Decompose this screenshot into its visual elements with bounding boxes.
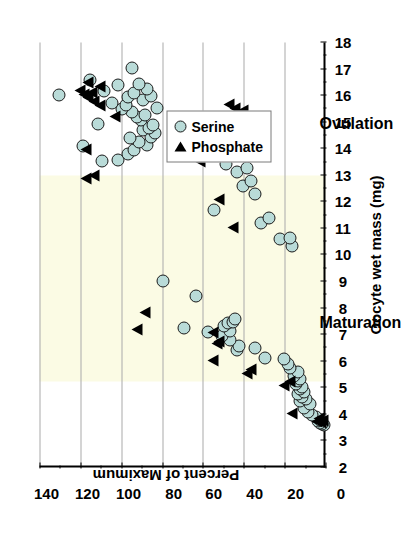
data-point-serine [244,174,257,187]
legend-item-serine: Serine [174,116,263,136]
x-tick-label: 4 [328,406,358,423]
x-tick [321,334,327,335]
phosphate-marker-icon [174,141,186,151]
data-point-phosphate [223,98,234,110]
x-tick [321,68,327,69]
y-tick [40,463,41,469]
data-point-phosphate [132,324,143,336]
data-point-phosphate [313,413,324,425]
data-point-serine [259,351,272,364]
data-point-phosphate [228,222,239,234]
x-tick [321,227,327,228]
x-minor-tick [324,453,327,454]
x-tick [321,387,327,388]
x-tick [321,254,327,255]
x-tick-label: 11 [328,220,358,237]
x-tick [321,42,327,43]
x-minor-tick [324,241,327,242]
data-point-serine [277,352,290,365]
x-tick-label: 9 [328,273,358,290]
y-tick-label: 100 [101,485,141,502]
x-tick [321,360,327,361]
y-tick-label: 140 [19,485,59,502]
x-minor-tick [324,294,327,295]
x-tick [321,95,327,96]
data-point-serine [138,108,151,121]
plot-area: 23456789101112131415161718 0204060801001… [40,43,326,468]
x-tick-label: 10 [328,247,358,264]
x-tick-label: 13 [328,167,358,184]
y-tick-label: 20 [264,485,304,502]
data-point-phosphate [95,81,106,93]
data-point-phosphate [140,307,151,319]
x-minor-tick [324,188,327,189]
x-tick-label: 14 [328,140,358,157]
x-minor-tick [324,81,327,82]
x-tick-label: 12 [328,193,358,210]
x-tick [321,440,327,441]
data-point-phosphate [213,194,224,206]
legend-item-phosphate: Phosphate [174,136,263,156]
data-point-serine [106,96,119,109]
x-tick-label: 5 [328,379,358,396]
data-point-phosphate [80,143,91,155]
y-tick [326,463,327,469]
axis-frame [40,43,326,468]
y-minor-tick [305,466,306,469]
data-point-phosphate [109,110,120,122]
x-minor-tick [324,134,327,135]
x-minor-tick [324,214,327,215]
data-point-phosphate [287,408,298,420]
x-minor-tick [324,267,327,268]
x-minor-tick [324,347,327,348]
data-point-serine [228,313,241,326]
data-point-serine [157,274,170,287]
data-point-serine [91,117,104,130]
y-tick-label: 120 [60,485,100,502]
y-tick-label: 80 [142,485,182,502]
y-axis-title: Percent of Maximum [56,467,276,484]
x-tick-label: 18 [328,34,358,51]
x-tick-label: 3 [328,432,358,449]
data-point-phosphate [285,376,296,388]
data-point-serine [132,78,145,91]
x-tick [321,148,327,149]
serine-marker-icon [174,120,186,132]
x-tick [321,281,327,282]
x-axis-title: Oocyte wet mass (mg) [367,43,384,468]
legend-label-phosphate: Phosphate [191,138,263,154]
x-minor-tick [324,55,327,56]
phase-label-maturation: Maturation [320,313,401,331]
data-point-serine [177,322,190,335]
x-minor-tick [324,400,327,401]
x-tick-label: 2 [328,459,358,476]
x-tick-label: 16 [328,87,358,104]
x-minor-tick [324,108,327,109]
data-point-phosphate [207,327,218,339]
data-point-phosphate [83,77,94,89]
rotated-chart-canvas: 23456789101112131415161718 0204060801001… [32,35,339,525]
y-tick-label: 0 [305,485,345,502]
data-point-serine [283,232,296,245]
y-tick-label: 60 [182,485,222,502]
x-tick [321,307,327,308]
data-point-serine [150,101,163,114]
data-point-serine [95,155,108,168]
x-minor-tick [324,374,327,375]
legend-label-serine: Serine [191,118,234,134]
data-point-phosphate [207,354,218,366]
y-tick-label: 40 [223,485,263,502]
data-point-serine [52,88,65,101]
data-point-phosphate [246,364,257,376]
y-tick [285,463,286,469]
x-tick [321,201,327,202]
chart-legend: Serine Phosphate [166,110,271,162]
x-tick [321,174,327,175]
data-point-serine [240,161,253,174]
x-minor-tick [324,161,327,162]
data-point-phosphate [89,170,100,182]
x-tick-label: 17 [328,61,358,78]
x-tick-label: 6 [328,353,358,370]
